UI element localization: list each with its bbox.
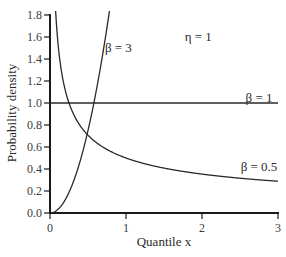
- curve-label: η = 1: [185, 29, 212, 44]
- y-tick-label: 0.8: [27, 118, 42, 132]
- x-tick-label: 1: [123, 221, 129, 235]
- x-tick-label: 3: [275, 221, 281, 235]
- annotations: η = 1β = 3β = 1β = 0.5: [105, 29, 277, 174]
- hazard-chart: 0.00.20.40.60.81.01.21.41.61.80123 η = 1…: [0, 0, 286, 257]
- y-tick-label: 1.0: [27, 96, 42, 110]
- y-tick-label: 1.8: [27, 8, 42, 22]
- y-tick-label: 1.6: [27, 30, 42, 44]
- y-tick-label: 0.6: [27, 140, 42, 154]
- y-tick-label: 0.0: [27, 206, 42, 220]
- curve-beta-3: [50, 0, 278, 213]
- curve-label: β = 3: [105, 40, 132, 55]
- y-tick-label: 1.2: [27, 74, 42, 88]
- x-axis-title: Quantile x: [137, 234, 192, 249]
- curve-beta-0_5: [52, 0, 278, 181]
- y-tick-label: 1.4: [27, 52, 42, 66]
- axes: [49, 14, 279, 214]
- curve-label: β = 0.5: [241, 159, 278, 174]
- x-tick-label: 0: [47, 221, 53, 235]
- y-tick-label: 0.4: [27, 162, 42, 176]
- curve-label: β = 1: [246, 90, 273, 105]
- y-axis-title: Probability density: [4, 63, 19, 162]
- y-tick-label: 0.2: [27, 184, 42, 198]
- data-curves: [50, 0, 278, 213]
- x-tick-label: 2: [199, 221, 205, 235]
